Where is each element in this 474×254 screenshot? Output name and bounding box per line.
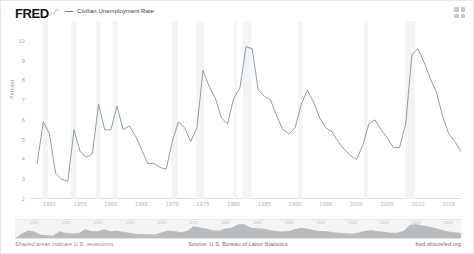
x-axis-tick-label: 1960 [104,201,117,207]
navigator-tick-label: 2005 [380,220,389,225]
y-axis-tick-label: 6 [11,117,25,123]
navigator-tick-label: 1995 [316,220,325,225]
y-axis-tick-label: 3 [11,176,25,182]
y-axis-tick-label: 9 [11,58,25,64]
recession-band [43,21,49,199]
x-axis-tick-label: 1955 [74,201,87,207]
navigator-tick-label: 1960 [93,220,102,225]
navigator-tick-label: 2000 [348,220,357,225]
navigator-tick-label: 1985 [253,220,262,225]
recession-band [113,21,118,199]
y-axis-tick-label: 5 [11,137,25,143]
navigator-tick-label: 1950 [30,220,39,225]
x-axis-tick-label: 1970 [166,201,179,207]
grid-cell [461,14,466,19]
fred-url[interactable]: fred.stlouisfed.org [415,241,461,247]
x-axis-tick-label: 1990 [289,201,302,207]
x-axis-tick-label: 1975 [196,201,209,207]
y-axis-tick-label: 7 [11,97,25,103]
x-axis-tick-label: 1995 [319,201,332,207]
recession-band [71,21,77,199]
four-squares-grid-icon[interactable] [454,7,465,18]
x-axis-tick-label: 1980 [227,201,240,207]
navigator-tick-label: 2015 [444,220,453,225]
recession-band [298,21,302,199]
navigator-area-fill [15,224,461,238]
x-axis-tick-label: 2010 [411,201,424,207]
source-label: Source: U.S. Bureau of Labor Statistics [188,241,288,247]
x-axis-tick-label: 1985 [258,201,271,207]
navigator-tick-label: 1990 [285,220,294,225]
y-axis-tick-label: 8 [11,77,25,83]
recession-band [234,21,237,199]
chart-legend[interactable]: Civilian Unemployment Rate [65,8,154,14]
legend-label: Civilian Unemployment Rate [77,8,154,14]
navigator-tick-label: 1970 [157,220,166,225]
fred-logo[interactable]: FRED [15,6,49,21]
unemployment-line-chart [31,21,461,199]
navigator-tick-label: 1955 [62,220,71,225]
chart-footer: Shaded areas indicate U.S. recessions So… [1,241,474,253]
y-axis-tick-label: 2 [11,196,25,202]
plot-area[interactable] [31,21,461,199]
fred-chart-card: FRED Civilian Unemployment Rate Percent … [0,0,474,254]
y-axis-tick-label: 4 [11,156,25,162]
recession-band [364,21,368,199]
recession-band [196,21,204,199]
x-axis-tick-label: 1950 [43,201,56,207]
navigator-tick-label: 2010 [412,220,421,225]
x-axis-tick-label: 2015 [442,201,455,207]
grid-cell [454,14,459,19]
mini-line-chart-icon [49,8,59,17]
y-axis-tick-label: 10 [11,38,25,44]
recession-note: Shaded areas indicate U.S. recessions [15,241,113,247]
grid-cell [454,7,459,12]
grid-cell [461,7,466,12]
x-axis-tick-label: 2005 [381,201,394,207]
x-axis-tick-label: 1965 [135,201,148,207]
x-axis-tick-label: 2000 [350,201,363,207]
recession-bands [43,21,415,199]
navigator-tick-label: 1975 [189,220,198,225]
navigator-tick-label: 1965 [125,220,134,225]
legend-color-swatch [65,11,73,12]
recession-band [172,21,178,199]
range-navigator[interactable]: 1950195519601965197019751980198519901995… [15,219,461,239]
navigator-mini-chart [15,220,461,238]
chart-header: FRED Civilian Unemployment Rate [1,1,474,23]
navigator-tick-label: 1980 [221,220,230,225]
